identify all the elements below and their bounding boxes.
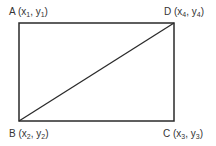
x-sub: 3 bbox=[181, 133, 185, 140]
y-sub: 1 bbox=[41, 11, 45, 18]
vertex-letter: D bbox=[164, 6, 171, 17]
x-sub: 2 bbox=[27, 133, 31, 140]
vertex-label-b: B (x2, y2) bbox=[9, 128, 49, 140]
vertex-letter: C bbox=[163, 128, 170, 139]
vertex-letter: B bbox=[9, 128, 16, 139]
vertex-label-d: D (x4, y4) bbox=[164, 6, 204, 18]
diagonal-b-to-d bbox=[19, 23, 174, 121]
y-sub: 3 bbox=[196, 133, 200, 140]
x-sub: 1 bbox=[26, 11, 30, 18]
vertex-letter: A bbox=[9, 6, 15, 17]
diagram-canvas bbox=[0, 0, 216, 146]
vertex-label-a: A (x1, y1) bbox=[9, 6, 48, 18]
y-sub: 4 bbox=[197, 11, 201, 18]
y-sub: 2 bbox=[41, 133, 45, 140]
x-sub: 4 bbox=[182, 11, 186, 18]
vertex-label-c: C (x3, y3) bbox=[163, 128, 203, 140]
